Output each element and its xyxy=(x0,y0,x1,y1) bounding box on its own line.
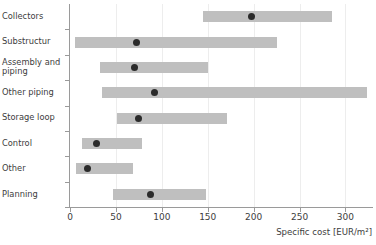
y-axis-tick xyxy=(65,106,70,107)
y-axis-tick xyxy=(65,55,70,56)
range-bar xyxy=(82,138,142,149)
x-axis-tick-label-150: 150 xyxy=(193,212,223,222)
range-bar xyxy=(102,87,366,98)
gridline-x-150 xyxy=(208,4,209,207)
y-axis-tick xyxy=(65,80,70,81)
y-axis-tick xyxy=(65,156,70,157)
x-axis-line xyxy=(69,207,373,208)
x-axis-tick-label-250: 250 xyxy=(285,212,315,222)
category-label-planning: Planning xyxy=(2,190,66,200)
y-axis-tick xyxy=(65,131,70,132)
category-label-control: Control xyxy=(2,139,66,149)
y-axis-tick xyxy=(65,182,70,183)
plot-area xyxy=(70,4,373,207)
x-axis-tick-label-200: 200 xyxy=(239,212,269,222)
x-axis-tick-label-300: 300 xyxy=(330,212,360,222)
range-bar xyxy=(113,189,206,200)
category-label-other-piping: Other piping xyxy=(2,88,66,98)
x-axis-tick-label-0: 0 xyxy=(55,212,85,222)
x-axis-tick-label-100: 100 xyxy=(147,212,177,222)
range-bar xyxy=(117,113,227,124)
range-bar xyxy=(203,11,332,22)
category-label-other: Other xyxy=(2,164,66,174)
gridline-x-50 xyxy=(116,4,117,207)
gridline-x-200 xyxy=(254,4,255,207)
gridline-x-250 xyxy=(300,4,301,207)
y-axis-tick xyxy=(65,29,70,30)
median-marker xyxy=(133,39,140,46)
category-label-storage-loop: Storage loop xyxy=(2,113,66,123)
category-label-assembly-and-piping: Assembly and piping xyxy=(2,58,66,77)
range-bar xyxy=(100,62,207,73)
gridline-x-300 xyxy=(345,4,346,207)
category-label-substructur: Substructur xyxy=(2,37,66,47)
range-bar-chart: CollectorsSubstructurAssembly and piping… xyxy=(0,0,376,245)
median-marker xyxy=(131,64,138,71)
range-bar xyxy=(75,37,277,48)
category-label-collectors: Collectors xyxy=(2,12,66,22)
gridline-x-100 xyxy=(162,4,163,207)
x-axis-title: Specific cost [EUR/m²] xyxy=(276,227,372,237)
x-axis-tick-label-50: 50 xyxy=(101,212,131,222)
